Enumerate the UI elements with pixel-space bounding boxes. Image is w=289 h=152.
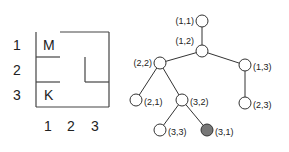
tree-node-label: (3,1) [215,127,234,137]
col-label: 2 [67,118,75,134]
search-tree: (1,1)(1,2)(2,2)(1,3)(2,1)(3,2)(2,3)(3,3)… [130,15,272,137]
tree-node-label: (1,3) [253,62,272,72]
maze-cell-k: K [44,87,54,103]
maze-labels: 1 2 3 1 2 3 M K [13,37,99,134]
tree-edge [160,51,202,63]
tree-node-n11 [196,15,208,27]
row-label: 1 [13,37,21,53]
tree-edge [202,51,245,65]
tree-node-n22 [154,57,166,69]
tree-node-label: (1,2) [175,36,194,46]
maze-cell-m: M [43,37,55,53]
tree-node-n32 [176,94,188,106]
tree-node-label: (1,1) [175,16,194,26]
tree-node-label: (3,2) [190,97,209,107]
tree-node-n31 [201,124,213,136]
tree-node-label: (2,3) [253,100,272,110]
col-label: 3 [91,118,99,134]
tree-edge [136,63,160,100]
tree-node-n12 [196,45,208,57]
diagram-canvas: 1 2 3 1 2 3 M K (1,1)(1,2)(2,2)(1,3)(2,1… [0,0,289,152]
tree-node-label: (2,2) [133,58,152,68]
col-label: 1 [44,118,52,134]
tree-node-n33 [154,124,166,136]
row-label: 2 [13,62,21,78]
tree-node-n23 [239,97,251,109]
tree-node-n13 [239,59,251,71]
tree-node-label: (2,1) [144,97,163,107]
tree-node-n21 [130,94,142,106]
row-label: 3 [13,87,21,103]
tree-node-label: (3,3) [168,127,187,137]
